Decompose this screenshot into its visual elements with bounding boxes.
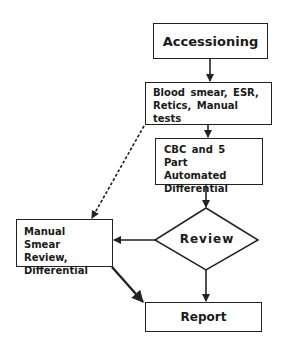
node-report-label: Report (181, 311, 227, 324)
node-review-label: Review (180, 232, 235, 246)
node-accessioning: Accessioning (153, 23, 268, 59)
node-manual-smear: Manual Smear Review, Differential (16, 219, 113, 267)
node-blood-smear-label: Blood smear, ESR, Retics, Manual tests (153, 87, 259, 124)
node-manual-smear-label: Manual Smear Review, Differential (24, 226, 88, 276)
node-cbc: CBC and 5 Part Automated Differential (155, 138, 263, 185)
node-accessioning-label: Accessioning (163, 35, 258, 48)
node-blood-smear: Blood smear, ESR, Retics, Manual tests (145, 82, 272, 125)
node-report: Report (145, 302, 262, 332)
node-cbc-label: CBC and 5 Part Automated Differential (164, 144, 228, 194)
edge-blood-smear-to-manual-smear-dashed (92, 126, 144, 218)
edge-manual-smear-to-report (112, 267, 143, 302)
